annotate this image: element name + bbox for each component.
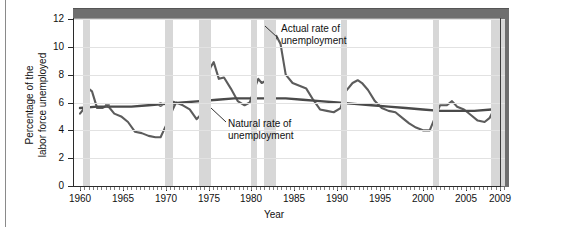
x-minor-tick (110, 187, 111, 190)
plot-frame-top-bar (73, 9, 509, 18)
x-minor-tick (316, 187, 317, 190)
annotation-natural-rate: Natural rate of unemployment (228, 118, 294, 141)
x-minor-tick (500, 187, 501, 190)
x-minor-tick (204, 187, 205, 190)
x-minor-tick (384, 187, 385, 190)
x-tick-label-2000: 2000 (403, 193, 443, 204)
y-tick-12 (68, 19, 74, 20)
x-tick-label-1990: 1990 (317, 193, 357, 204)
x-minor-tick (440, 187, 441, 190)
x-minor-tick (161, 187, 162, 190)
x-minor-tick (183, 187, 184, 190)
x-minor-tick (329, 187, 330, 190)
x-minor-tick (234, 187, 235, 190)
x-minor-tick (491, 187, 492, 190)
x-minor-tick (196, 187, 197, 190)
x-minor-tick (239, 187, 240, 190)
x-minor-tick (209, 187, 210, 190)
x-minor-tick (470, 187, 471, 190)
x-minor-tick (247, 187, 248, 190)
x-minor-tick (410, 187, 411, 190)
x-minor-tick (217, 187, 218, 190)
x-tick-label-1980: 1980 (231, 193, 271, 204)
x-minor-tick (380, 187, 381, 190)
x-minor-tick (213, 187, 214, 190)
y-axis-title: Percentage of the labor force unemployed (23, 5, 49, 205)
x-minor-tick (307, 187, 308, 190)
x-tick-label-2009: 2009 (480, 193, 520, 204)
x-minor-tick (290, 187, 291, 190)
x-minor-tick (483, 187, 484, 190)
x-minor-tick (89, 187, 90, 190)
x-minor-tick (333, 187, 334, 190)
x-minor-tick (157, 187, 158, 190)
x-minor-tick (376, 187, 377, 190)
x-minor-tick (414, 187, 415, 190)
x-minor-tick (106, 187, 107, 190)
y-tick-4 (68, 130, 74, 131)
x-minor-tick (466, 187, 467, 190)
x-minor-tick (389, 187, 390, 190)
x-tick-label-1970: 1970 (146, 193, 186, 204)
x-minor-tick (273, 187, 274, 190)
x-minor-tick (260, 187, 261, 190)
x-minor-tick (93, 187, 94, 190)
x-minor-tick (371, 187, 372, 190)
plot-right-border (500, 18, 501, 186)
x-minor-tick (436, 187, 437, 190)
x-minor-tick (140, 187, 141, 190)
x-minor-tick (131, 187, 132, 190)
x-minor-tick (393, 187, 394, 190)
x-minor-tick (170, 187, 171, 190)
x-tick-label-1975: 1975 (189, 193, 229, 204)
x-minor-tick (226, 187, 227, 190)
x-minor-tick (423, 187, 424, 190)
x-axis-title-text: Year (264, 209, 284, 220)
x-minor-tick (221, 187, 222, 190)
x-minor-tick (367, 187, 368, 190)
x-minor-tick (84, 187, 85, 190)
x-minor-tick (444, 187, 445, 190)
figure-bottom-rule (5, 227, 562, 228)
figure-left-rule (5, 0, 6, 228)
x-minor-tick (363, 187, 364, 190)
x-minor-tick (311, 187, 312, 190)
x-minor-tick (479, 187, 480, 190)
x-minor-tick (166, 187, 167, 190)
x-tick-label-1965: 1965 (103, 193, 143, 204)
x-tick-label-1985: 1985 (274, 193, 314, 204)
y-tick-2 (68, 158, 74, 159)
x-minor-tick (101, 187, 102, 190)
x-minor-tick (474, 187, 475, 190)
gridline-10 (73, 47, 505, 48)
x-minor-tick (496, 187, 497, 190)
x-minor-tick (299, 187, 300, 190)
x-minor-tick (230, 187, 231, 190)
x-minor-tick (457, 187, 458, 190)
x-minor-tick (320, 187, 321, 190)
y-tick-6 (68, 103, 74, 104)
x-minor-tick (179, 187, 180, 190)
y-tick-10 (68, 47, 74, 48)
x-minor-tick (461, 187, 462, 190)
x-minor-tick (294, 187, 295, 190)
x-minor-tick (264, 187, 265, 190)
x-minor-tick (324, 187, 325, 190)
x-tick-label-1995: 1995 (360, 193, 400, 204)
gridline-12 (73, 19, 505, 20)
gridline-8 (73, 75, 505, 76)
x-minor-tick (119, 187, 120, 190)
x-axis-title: Year (0, 209, 562, 220)
x-minor-tick (406, 187, 407, 190)
x-minor-tick (449, 187, 450, 190)
x-minor-tick (350, 187, 351, 190)
x-minor-tick (397, 187, 398, 190)
x-minor-tick (337, 187, 338, 190)
x-minor-tick (123, 187, 124, 190)
x-minor-tick (419, 187, 420, 190)
y-tick-8 (68, 75, 74, 76)
x-minor-tick (153, 187, 154, 190)
x-minor-tick (401, 187, 402, 190)
plot-top-border (73, 18, 501, 19)
x-minor-tick (243, 187, 244, 190)
